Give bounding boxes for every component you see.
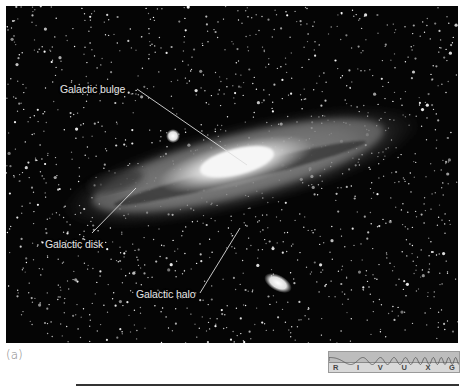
divider-rule xyxy=(76,384,459,386)
wavelength-spectrum-indicator: R I V U X G xyxy=(328,351,460,373)
band-v: V xyxy=(378,363,383,372)
galactic-bulge-label: Galactic bulge xyxy=(60,83,125,95)
spectrum-bands: R I V U X G xyxy=(329,363,459,372)
halo-leader-line xyxy=(200,228,240,293)
band-g: G xyxy=(449,363,455,372)
starfield-image xyxy=(6,6,458,343)
galactic-disk-label: Galactic disk xyxy=(45,238,103,250)
band-x: X xyxy=(425,363,430,372)
satellite-galaxy-upper xyxy=(166,129,180,143)
galaxy-photograph: Galactic bulge Galactic disk Galactic ha… xyxy=(6,6,458,343)
galactic-halo-label: Galactic halo xyxy=(136,288,195,300)
wave-icon xyxy=(329,352,459,363)
panel-label: (a) xyxy=(6,348,23,362)
satellite-galaxy-lower xyxy=(261,269,295,297)
band-r: R xyxy=(333,363,338,372)
band-u: U xyxy=(401,363,406,372)
band-i: I xyxy=(357,363,359,372)
